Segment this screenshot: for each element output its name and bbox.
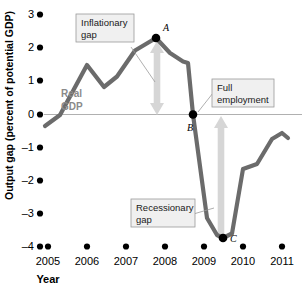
- y-tick-label-neg1: –1: [22, 141, 34, 153]
- x-tick-dot-2006: [84, 243, 90, 249]
- x-tick-dot-2010: [240, 243, 246, 249]
- x-tick-label-2011: 2011: [270, 255, 294, 267]
- x-tick-label-2007: 2007: [114, 255, 138, 267]
- data-point-b: [189, 110, 198, 119]
- y-tick-label-neg2: –2: [22, 174, 34, 186]
- callout-inflationary-gap-line2: gap: [81, 29, 97, 40]
- x-tick-label-2010: 2010: [231, 255, 255, 267]
- x-tick-label-2006: 2006: [75, 255, 99, 267]
- x-tick-label-2008: 2008: [153, 255, 177, 267]
- y-tick-label-1: 1: [28, 74, 34, 86]
- callout-recessionary-gap-line1: Recessionary: [136, 202, 194, 213]
- series-label-line2: GDP: [61, 101, 83, 112]
- y-tick-dot-3: [37, 11, 43, 17]
- x-tick-dot-2007: [123, 243, 129, 249]
- y-tick-dot-neg4: [37, 243, 43, 249]
- y-tick-dot-neg2: [37, 177, 43, 183]
- data-point-c-label: C: [230, 233, 237, 244]
- x-tick-label-2009: 2009: [192, 255, 216, 267]
- x-tick-dot-2005: [45, 243, 51, 249]
- data-point-a-label: A: [162, 22, 170, 33]
- x-tick-dot-2011: [279, 243, 285, 249]
- x-tick-dot-2008: [162, 243, 168, 249]
- y-tick-dot-neg3: [37, 210, 43, 216]
- y-tick-dot-neg1: [37, 144, 43, 150]
- callout-recessionary-gap-line2: gap: [136, 214, 152, 225]
- x-tick-dot-2009: [201, 243, 207, 249]
- output-gap-chart-figure: Output gap (percent of potential GDP) 3 …: [0, 0, 306, 303]
- y-tick-label-neg3: –3: [22, 207, 34, 219]
- callout-inflationary-gap-line1: Inflationary: [81, 17, 128, 28]
- y-tick-dot-2: [37, 44, 43, 50]
- data-point-b-label: B: [187, 122, 193, 133]
- y-tick-label-3: 3: [28, 8, 34, 20]
- callout-full-employment-line1: Full: [217, 82, 232, 93]
- y-tick-label-neg4: –4: [22, 240, 34, 252]
- x-tick-label-2005: 2005: [36, 255, 60, 267]
- data-point-a: [152, 34, 161, 43]
- y-tick-label-0: 0: [28, 108, 34, 120]
- y-tick-dot-1: [37, 77, 43, 83]
- y-axis-title: Output gap (percent of potential GDP): [3, 11, 15, 200]
- x-axis-title: Year: [36, 273, 60, 285]
- y-tick-label-2: 2: [28, 41, 34, 53]
- chart-svg: Output gap (percent of potential GDP) 3 …: [0, 0, 306, 303]
- callout-full-employment-line2: employment: [217, 94, 269, 105]
- data-point-c: [219, 234, 228, 243]
- series-label-line1: Real: [61, 88, 82, 99]
- y-tick-dot-0: [37, 111, 43, 117]
